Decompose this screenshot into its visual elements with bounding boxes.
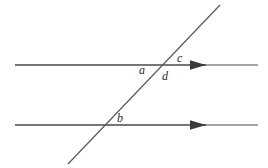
angle-label-d: d	[162, 70, 168, 82]
figure-canvas	[0, 0, 268, 168]
angle-label-c: c	[177, 52, 182, 64]
transversal-line	[68, 5, 220, 164]
angle-label-a: a	[139, 64, 145, 76]
lower-line-arrowhead	[190, 120, 206, 130]
upper-line-arrowhead	[190, 60, 206, 70]
geometry-figure: a d c b	[0, 0, 268, 168]
angle-label-b: b	[117, 112, 123, 124]
